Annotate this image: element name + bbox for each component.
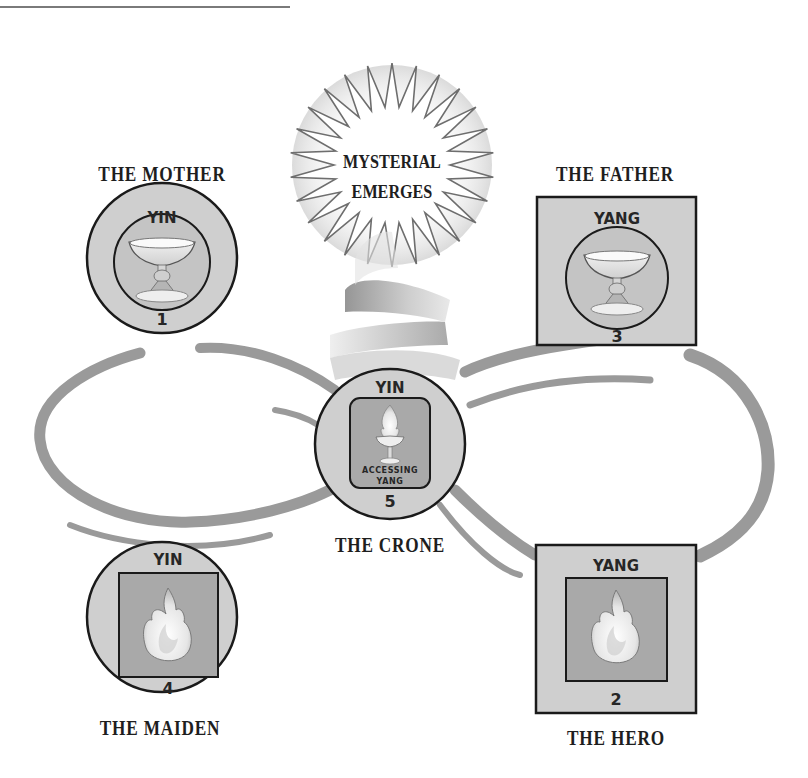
polarity-label: YIN [375, 379, 405, 397]
polarity-label: YIN [153, 551, 183, 569]
node-mother[interactable]: YIN 1 [87, 183, 237, 333]
node-maiden[interactable]: YIN 4 [87, 542, 237, 698]
node-number: 3 [611, 327, 622, 346]
title-father: THE FATHER [549, 162, 680, 187]
node-number: 1 [156, 310, 167, 329]
node-number: 4 [162, 679, 173, 698]
node-crone[interactable]: YIN ACCESSING YANG 5 [315, 369, 465, 519]
diagram-canvas: MYSTERIAL EMERGES YIN 1 YANG [0, 0, 808, 778]
title-hero: THE HERO [550, 726, 681, 751]
title-crone: THE CRONE [324, 533, 455, 558]
symbol-caption-line2: YANG [376, 477, 404, 486]
title-mother: THE MOTHER [96, 162, 227, 187]
node-hero[interactable]: YANG 2 [536, 545, 696, 713]
node-number: 2 [610, 690, 621, 709]
polarity-label: YANG [592, 557, 639, 575]
burst-text-line1: MYSTERIAL [343, 151, 441, 173]
polarity-label: YIN [147, 209, 177, 227]
node-father[interactable]: YANG 3 [537, 197, 696, 346]
polarity-label: YANG [593, 210, 640, 228]
node-number: 5 [384, 492, 395, 511]
burst-text-line2: EMERGES [352, 181, 433, 203]
symbol-caption-line1: ACCESSING [362, 466, 418, 475]
title-maiden: THE MAIDEN [94, 716, 225, 741]
